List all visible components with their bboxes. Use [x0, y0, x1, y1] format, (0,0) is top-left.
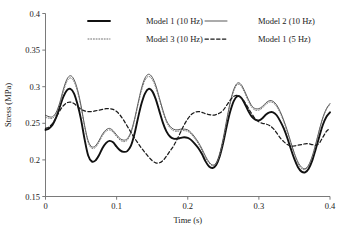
- legend-label: Model 1 (10 Hz): [146, 16, 203, 26]
- data-series-group: [46, 74, 331, 172]
- x-tick-label: 0.3: [254, 201, 265, 211]
- legend-label: Model 1 (5 Hz): [258, 34, 311, 44]
- y-tick-label: 0.25: [25, 118, 40, 128]
- legend-label: Model 2 (10 Hz): [258, 16, 315, 26]
- x-axis-title: Time (s): [173, 215, 202, 225]
- x-tick-label: 0.4: [325, 201, 336, 211]
- x-axis-tick-group: 00.10.20.30.4: [43, 197, 336, 211]
- x-tick-label: 0.1: [111, 201, 122, 211]
- y-tick-label: 0.15: [25, 192, 40, 202]
- stress-time-chart-figure: 0.150.20.250.30.350.4 00.10.20.30.4 Mode…: [0, 0, 348, 239]
- y-tick-label: 0.4: [29, 9, 40, 19]
- y-axis-tick-group: 0.150.20.250.30.350.4: [25, 9, 45, 202]
- y-axis-title: Stress (MPa): [3, 83, 13, 127]
- x-tick-label: 0: [43, 201, 47, 211]
- y-tick-label: 0.3: [29, 82, 40, 92]
- legend-label: Model 3 (10 Hz): [146, 34, 203, 44]
- x-tick-label: 0.2: [182, 201, 193, 211]
- y-tick-label: 0.2: [29, 155, 40, 165]
- chart-legend: Model 1 (10 Hz)Model 2 (10 Hz)Model 3 (1…: [88, 16, 315, 44]
- chart-canvas: 0.150.20.250.30.350.4 00.10.20.30.4 Mode…: [0, 0, 348, 239]
- y-tick-label: 0.35: [25, 45, 40, 55]
